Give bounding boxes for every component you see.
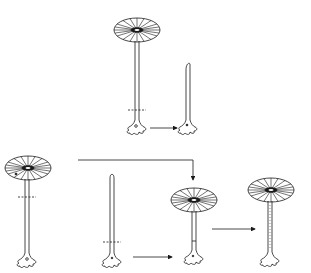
bottom-left-parent-plant	[5, 156, 51, 268]
final-result-plant	[248, 178, 294, 267]
arrow-parent-to-graft	[78, 160, 193, 180]
graft-result-plant	[171, 188, 217, 265]
acetabularia-diagram	[0, 0, 311, 273]
top-parent-plant	[114, 18, 160, 135]
bottom-middle-stalk	[102, 174, 121, 267]
top-regrowth-plant	[178, 63, 197, 134]
